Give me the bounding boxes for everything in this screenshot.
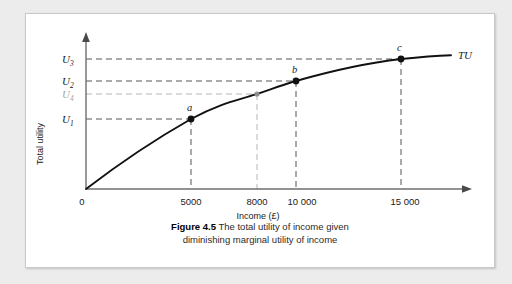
- figure-caption-line2: diminishing marginal utility of income: [26, 233, 494, 246]
- y-axis-title: Total utility: [35, 122, 45, 165]
- data-point-label-c: c: [397, 42, 402, 53]
- data-point-label-a: a: [187, 102, 192, 113]
- x-tick-label-10000: 10 000: [287, 196, 316, 207]
- y-tick-label-U1: U1: [62, 113, 74, 128]
- figure-frame: a b c TU U3 U2 U4 U1: [25, 13, 495, 268]
- horizontal-guide-lines: [86, 59, 401, 119]
- data-point-c: [398, 56, 405, 63]
- data-point-b: [293, 78, 300, 85]
- x-tick-label-15000: 15 000: [390, 196, 419, 207]
- total-utility-curve: [86, 55, 451, 189]
- figure-caption: Figure 4.5 The total utility of income g…: [26, 220, 494, 246]
- data-point-labels: a b c: [187, 42, 402, 113]
- x-tick-label-5000: 5000: [180, 196, 201, 207]
- figure-caption-text: The total utility of income given: [218, 221, 348, 232]
- x-tick-label-8000: 8000: [246, 196, 267, 207]
- y-axis-arrow-icon: [82, 32, 90, 42]
- chart-axes: [82, 32, 472, 193]
- y-tick-label-U3: U3: [62, 53, 74, 68]
- data-point-label-b: b: [292, 64, 297, 75]
- figure-caption-line1: Figure 4.5 The total utility of income g…: [26, 220, 494, 233]
- data-point-a: [188, 116, 195, 123]
- y-tick-label-U4: U4: [62, 88, 74, 103]
- data-point-unlabeled-8000: [254, 91, 259, 96]
- x-tick-label-origin: 0: [79, 196, 84, 207]
- x-axis-arrow-icon: [462, 185, 472, 193]
- x-axis-tick-labels: 0 5000 8000 10 000 15 000: [79, 196, 419, 207]
- curve-label-tu: TU: [458, 49, 473, 61]
- y-axis-tick-labels: U3 U2 U4 U1: [62, 53, 74, 128]
- figure-caption-label: Figure 4.5: [171, 221, 216, 232]
